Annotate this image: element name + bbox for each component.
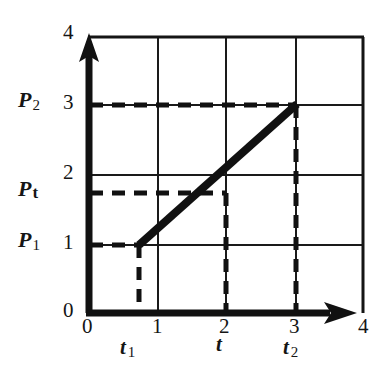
x-axis-label-t2-subscript: 2 [289,344,299,360]
x-axis-label-t1-subscript: 1 [126,344,136,360]
x-axis-label-t-subscript [222,341,224,357]
y-tick-label-0: 0 [63,300,74,321]
y-axis-label-p2: P2 [18,89,40,111]
x-axis-label-t2: t2 [283,337,298,358]
y-axis-label-p1-subscript: 1 [31,237,40,253]
x-axis-label-t1: t1 [120,337,135,358]
y-axis [79,33,99,313]
chart-figure: 4 3 2 1 0 0 1 2 3 4 P2 Pt P1 t1 t t2 [0,0,389,365]
y-axis-label-p1-symbol: P [18,227,31,252]
y-axis-label-p2-subscript: 2 [31,97,40,113]
y-tick-label-2: 2 [63,162,74,183]
y-axis-label-pt: Pt [18,178,38,200]
y-tick-label-4: 4 [63,22,74,43]
y-axis-label-pt-symbol: P [18,176,31,201]
x-tick-label-3: 3 [289,316,300,337]
x-axis-label-t: t [216,334,224,355]
x-axis-label-t-symbol: t [216,332,222,356]
y-tick-label-3: 3 [63,92,74,113]
y-axis-label-p2-symbol: P [18,87,31,112]
x-tick-label-0: 0 [82,316,93,337]
x-tick-label-1: 1 [152,316,163,337]
x-axis-label-t1-symbol: t [120,335,126,359]
chart-plot-area [0,0,389,365]
x-axis-label-t2-symbol: t [283,335,289,359]
y-axis-label-p1: P1 [18,229,40,251]
y-tick-label-1: 1 [63,232,74,253]
x-tick-label-4: 4 [358,316,369,337]
y-axis-label-pt-subscript: t [31,183,38,202]
